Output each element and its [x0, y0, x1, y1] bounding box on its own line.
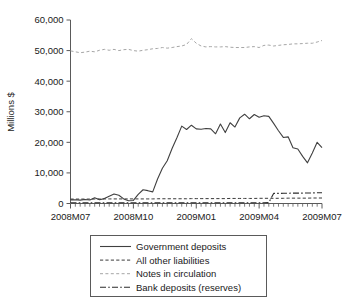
series-line-notes-in-circulation [71, 39, 323, 53]
y-tick-label: 20,000 [34, 137, 63, 148]
chart-series [71, 39, 323, 203]
x-axis-ticks: 2008M072008M102009M012009M042009M07 [51, 204, 342, 222]
series-line-bank-deposits-reserves [71, 193, 323, 203]
series-line-government-deposits [71, 114, 323, 201]
y-tick-label: 10,000 [34, 167, 63, 178]
y-tick-label: 30,000 [34, 106, 63, 117]
y-axis-ticks: 010,00020,00030,00040,00050,00060,000 [34, 14, 70, 209]
chart-legend: Government depositsAll other liabilities… [91, 236, 267, 297]
x-tick-label: 2009M04 [239, 211, 279, 222]
y-tick-label: 50,000 [34, 45, 63, 56]
legend-label-3: Notes in circulation [136, 268, 216, 279]
x-tick-label: 2009M01 [176, 211, 216, 222]
legend-label-4: Bank deposits (reserves) [136, 282, 241, 293]
line-chart: 010,00020,00030,00040,00050,00060,000 20… [0, 0, 355, 306]
series-line-all-other-liabilities [71, 198, 323, 199]
y-tick-label: 40,000 [34, 76, 63, 87]
y-axis-title: Millions $ [5, 91, 16, 131]
x-tick-label: 2008M07 [51, 211, 91, 222]
x-tick-label: 2009M07 [302, 211, 342, 222]
y-tick-label: 60,000 [34, 14, 63, 25]
legend-label-1: Government deposits [136, 241, 227, 252]
legend-label-2: All other liabilities [136, 255, 210, 266]
x-tick-label: 2008M10 [114, 211, 154, 222]
y-tick-label: 0 [58, 198, 63, 209]
chart-figure: 010,00020,00030,00040,00050,00060,000 20… [0, 0, 355, 306]
